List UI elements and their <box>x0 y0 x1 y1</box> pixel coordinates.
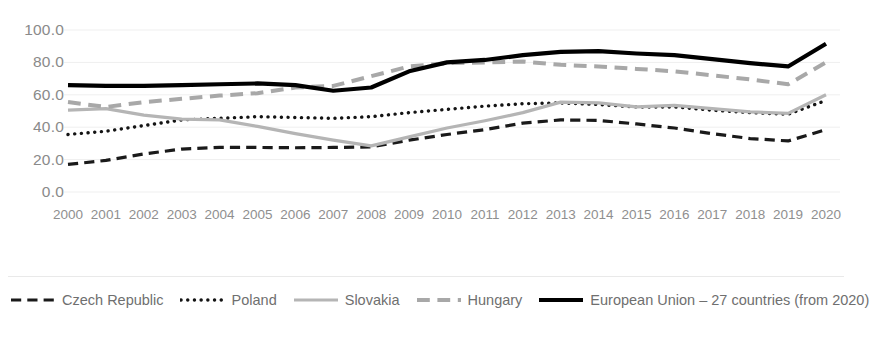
x-axis-tick-label: 2012 <box>503 208 543 222</box>
x-axis-tick-label: 2007 <box>313 208 353 222</box>
y-axis-tick-label: 20.0 <box>6 152 64 168</box>
x-axis-tick-label: 2002 <box>124 208 164 222</box>
series-line-slovakia <box>68 95 826 146</box>
y-axis-tick-label: 60.0 <box>6 87 64 103</box>
x-axis-tick-label: 2011 <box>465 208 505 222</box>
x-axis-tick-label: 2017 <box>692 208 732 222</box>
legend-swatch-solid-line-icon <box>538 294 584 306</box>
x-axis-tick-label: 2004 <box>200 208 240 222</box>
x-axis-tick-label: 2015 <box>617 208 657 222</box>
x-axis-tick-label: 2009 <box>389 208 429 222</box>
x-axis-tick-label: 2013 <box>541 208 581 222</box>
legend-swatch-dashed-line-icon <box>10 294 56 306</box>
legend-item[interactable]: European Union – 27 countries (from 2020… <box>538 288 874 312</box>
series-line-european-union-27-countries-from-2020 <box>68 44 826 91</box>
y-axis-tick-label: 80.0 <box>6 54 64 70</box>
legend-item[interactable]: Poland <box>180 288 293 312</box>
legend-divider <box>8 276 844 277</box>
x-axis-tick-label: 2008 <box>351 208 391 222</box>
legend-label: Hungary <box>462 293 539 308</box>
legend-label: European Union – 27 countries (from 2020… <box>584 293 874 308</box>
x-axis-tick-label: 2018 <box>730 208 770 222</box>
legend-swatch-dotted-line-icon <box>180 294 226 306</box>
x-axis-tick-label: 2016 <box>654 208 694 222</box>
y-axis-tick-label: 40.0 <box>6 119 64 135</box>
y-axis-tick-label: 100.0 <box>6 22 64 38</box>
x-axis-tick-label: 2001 <box>86 208 126 222</box>
chart-legend: Czech RepublicPolandSlovakiaHungaryEurop… <box>10 288 848 312</box>
legend-swatch-dashed-line-icon <box>416 294 462 306</box>
x-axis-tick-label: 2014 <box>579 208 619 222</box>
x-axis-tick-label: 2000 <box>48 208 88 222</box>
legend-item[interactable]: Slovakia <box>293 288 416 312</box>
x-axis-tick-label: 2020 <box>806 208 846 222</box>
legend-item[interactable]: Czech Republic <box>10 288 180 312</box>
x-axis-tick-label: 2003 <box>162 208 202 222</box>
x-axis-tick-label: 2010 <box>427 208 467 222</box>
x-axis-tick-label: 2005 <box>238 208 278 222</box>
legend-label: Poland <box>226 293 293 308</box>
legend-label: Czech Republic <box>56 293 180 308</box>
y-axis-tick-label: 0.0 <box>6 184 64 200</box>
x-axis-tick-label: 2006 <box>275 208 315 222</box>
legend-swatch-solid-line-icon <box>293 294 339 306</box>
legend-item[interactable]: Hungary <box>416 288 539 312</box>
x-axis-tick-label: 2019 <box>768 208 808 222</box>
legend-label: Slovakia <box>339 293 416 308</box>
